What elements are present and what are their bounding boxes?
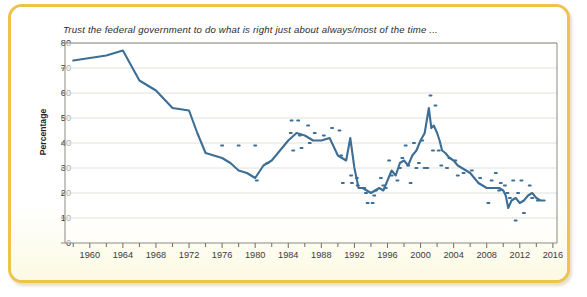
x-axis-tick-label: 2008 bbox=[476, 250, 496, 260]
scatter-marker bbox=[371, 202, 375, 204]
x-axis-tick-label: 1960 bbox=[80, 250, 100, 260]
x-axis-tick-label: 1992 bbox=[344, 250, 364, 260]
scatter-marker bbox=[296, 119, 300, 121]
scatter-marker bbox=[470, 169, 474, 171]
scatter-marker bbox=[400, 157, 404, 159]
scatter-marker bbox=[330, 127, 334, 129]
scatter-marker bbox=[499, 182, 503, 184]
scatter-marker bbox=[308, 142, 312, 144]
scatter-marker bbox=[409, 182, 413, 184]
scatter-marker bbox=[417, 162, 421, 164]
scatter-marker bbox=[404, 144, 408, 146]
x-axis-tick-label: 1988 bbox=[311, 250, 331, 260]
x-axis-tick-label: 1964 bbox=[113, 250, 133, 260]
scatter-marker bbox=[511, 179, 515, 181]
scatter-marker bbox=[439, 164, 443, 166]
scatter-marker bbox=[462, 172, 466, 174]
scatter-marker bbox=[289, 132, 293, 134]
scatter-marker bbox=[433, 104, 437, 106]
scatter-marker bbox=[313, 132, 317, 134]
scatter-marker bbox=[514, 219, 518, 221]
scatter-marker bbox=[372, 194, 376, 196]
chart-plot bbox=[11, 7, 567, 280]
x-axis-tick-label: 2000 bbox=[410, 250, 430, 260]
scatter-marker bbox=[253, 144, 257, 146]
scatter-marker bbox=[478, 177, 482, 179]
x-axis-tick-label: 1984 bbox=[278, 250, 298, 260]
x-axis-tick-label: 1980 bbox=[245, 250, 265, 260]
scatter-marker bbox=[255, 179, 259, 181]
scatter-marker bbox=[522, 212, 526, 214]
scatter-marker bbox=[456, 174, 460, 176]
scatter-marker bbox=[425, 167, 429, 169]
scatter-marker bbox=[290, 119, 294, 121]
x-axis-tick-label: 1972 bbox=[179, 250, 199, 260]
scatter-marker bbox=[237, 144, 241, 146]
scatter-marker bbox=[387, 159, 391, 161]
chart-figure-inner: Trust the federal government to do what … bbox=[11, 7, 567, 280]
scatter-marker bbox=[306, 124, 310, 126]
x-axis-tick-label: 2004 bbox=[443, 250, 463, 260]
scatter-marker bbox=[516, 192, 520, 194]
x-axis-tick-label: 2012 bbox=[510, 250, 530, 260]
scatter-marker bbox=[428, 94, 432, 96]
scatter-marker bbox=[530, 197, 534, 199]
scatter-marker bbox=[322, 134, 326, 136]
scatter-marker bbox=[364, 192, 368, 194]
x-axis-major-ticks bbox=[73, 243, 553, 248]
scatter-marker bbox=[494, 172, 498, 174]
x-axis-tick-label: 1968 bbox=[146, 250, 166, 260]
scatter-marker bbox=[528, 184, 532, 186]
scatter-marker bbox=[414, 167, 418, 169]
scatter-marker bbox=[519, 179, 523, 181]
scatter-marker bbox=[445, 167, 449, 169]
scatter-marker bbox=[486, 202, 490, 204]
x-axis-tick-label: 1996 bbox=[377, 250, 397, 260]
scatter-marker bbox=[291, 149, 295, 151]
scatter-marker bbox=[379, 177, 383, 179]
scatter-marker bbox=[299, 147, 303, 149]
x-axis-tick-label: 2016 bbox=[543, 250, 563, 260]
scatter-marker bbox=[366, 202, 370, 204]
chart-figure-frame: Trust the federal government to do what … bbox=[8, 4, 570, 283]
scatter-marker bbox=[350, 182, 354, 184]
scatter-marker bbox=[508, 197, 512, 199]
scatter-marker bbox=[490, 179, 494, 181]
scatter-marker bbox=[437, 149, 441, 151]
scatter-marker bbox=[395, 179, 399, 181]
scatter-marker bbox=[349, 174, 353, 176]
x-axis-tick-label: 1976 bbox=[212, 250, 232, 260]
scatter-marker bbox=[338, 129, 342, 131]
scatter-marker bbox=[431, 149, 435, 151]
scatter-marker bbox=[220, 144, 224, 146]
scatter-marker bbox=[341, 182, 345, 184]
scatter-marker bbox=[412, 142, 416, 144]
scatter-marker bbox=[503, 184, 507, 186]
